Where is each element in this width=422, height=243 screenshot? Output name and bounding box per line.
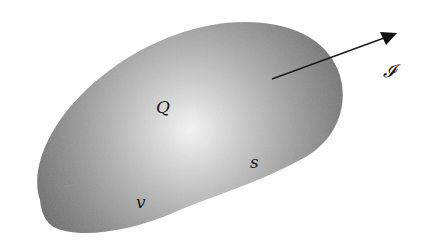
heat-label: Q [156, 97, 170, 117]
diagram-canvas: Q s v 𝓘 [0, 0, 422, 243]
control-volume-region [37, 22, 343, 233]
flux-label: 𝓘 [383, 60, 401, 81]
control-volume-diagram: Q s v 𝓘 [0, 0, 422, 243]
volume-label: v [136, 192, 146, 212]
surface-label: s [250, 152, 259, 172]
